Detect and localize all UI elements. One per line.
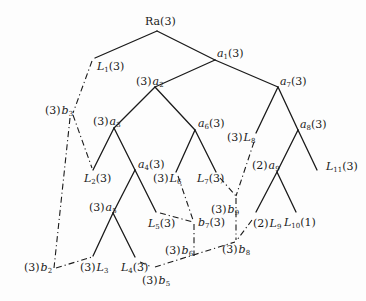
dash-b3-l2 [73,115,92,168]
label-a7: a7(3) [280,75,307,89]
label-l5: L5(3) [147,217,175,231]
label-l10: L10(1) [283,216,316,230]
label-b7: b7(3) [198,216,225,230]
label-b3: (3)b3 [45,104,73,118]
edge-a8-a9 [277,130,298,172]
edge-a1-a7 [215,60,278,87]
edge-a6-l6 [176,130,195,172]
label-b6: (3)b6 [165,244,194,258]
label-ra: Ra(3) [145,15,176,28]
edge-a6-l7 [195,130,216,172]
dash-l9-b8 [237,220,252,240]
label-l6: (3)L6 [153,172,182,186]
label-a9: (2)a9 [252,159,280,173]
tree-svg: Ra(3) L1(3) a1(3) (3)a2 a7(3) (3)b3 (3)a… [0,0,366,301]
label-a6: a6(3) [198,117,225,131]
label-a8: a8(3) [300,118,327,132]
label-a2: (3)a2 [136,75,164,89]
label-l7: L7(3) [196,172,224,186]
edge-a7-a8 [278,87,298,130]
edge-a5-l3 [93,213,113,256]
label-l8: (3)L8 [227,131,255,145]
edge-a2-a6 [155,87,195,130]
dash-b3-b2 [54,118,70,268]
dash-l1-b3 [73,61,92,113]
edge-ra-l1 [95,31,157,58]
edge-a9-l10 [277,172,296,212]
edge-a3-l2 [93,128,114,170]
edge-a3-a4 [114,128,135,170]
label-a3: (3)a3 [93,115,121,129]
edge-a7-l8 [256,87,278,133]
edge-a8-l11 [298,130,317,170]
label-a4: a4(3) [138,158,165,172]
label-l9: (2)L9 [253,217,281,231]
label-b9: (3)b9 [211,203,239,217]
label-l3: (3)L3 [80,261,108,275]
label-b5: (3)b5 [142,274,170,288]
edge-a5-l4 [113,213,135,257]
label-l4: L4(3) [120,261,148,275]
label-l11: L11(3) [325,160,358,174]
label-a1: a1(3) [217,47,244,61]
label-b8: (3)b8 [222,243,250,257]
label-l2: L2(3) [83,172,111,186]
edge-ra-a1 [157,31,215,60]
edge-a9-l9 [256,172,277,212]
label-b2: (3)b2 [24,261,52,275]
label-a5: (3)a5 [89,201,117,215]
tree-diagram: Ra(3) L1(3) a1(3) (3)a2 a7(3) (3)b3 (3)a… [0,0,366,301]
label-l1: L1(3) [96,60,124,74]
edge-a1-a2 [155,60,215,87]
